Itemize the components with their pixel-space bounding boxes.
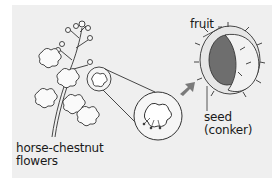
flowers-label-line2: flowers (16, 155, 104, 168)
horse-chestnut-flowers-label: horse-chestnut flowers (16, 142, 104, 168)
large-flower-detail-circle (134, 92, 182, 140)
arrow-icon (180, 82, 195, 96)
conker-fruit-icon (194, 22, 265, 97)
seed-label: seed (conker) (204, 111, 252, 137)
seed-label-line2: (conker) (204, 124, 252, 137)
fruit-label: fruit (190, 18, 214, 31)
